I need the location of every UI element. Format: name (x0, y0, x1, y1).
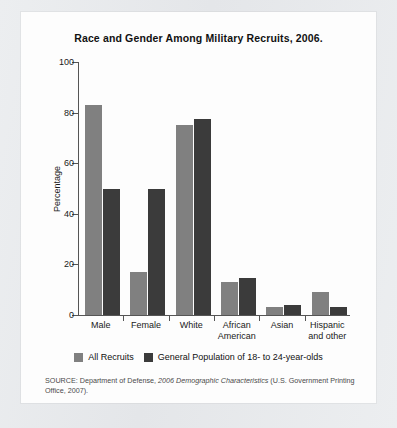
bar (194, 119, 211, 315)
y-tick-label: 60 (64, 158, 74, 168)
bar (330, 307, 347, 315)
bar-group (309, 62, 346, 315)
bar (284, 305, 301, 315)
x-axis-label-line: American (202, 331, 272, 342)
chart-title: Race and Gender Among Military Recruits,… (21, 32, 376, 44)
legend-label: All Recruits (88, 352, 134, 362)
bar-group (263, 62, 300, 315)
x-axis-label: Hispanicand other (292, 320, 362, 342)
bar (221, 282, 238, 315)
bar (85, 105, 102, 315)
chart-legend: All Recruits General Population of 18- t… (21, 352, 376, 362)
figure-card: Race and Gender Among Military Recruits,… (21, 12, 376, 403)
legend-label: General Population of 18- to 24-year-old… (158, 352, 323, 362)
source-title: 2006 Demographic Characteristics (158, 376, 268, 385)
bar (176, 125, 193, 315)
legend-swatch-icon (144, 353, 153, 362)
legend-item-general-population: General Population of 18- to 24-year-old… (144, 352, 323, 362)
bar-group (173, 62, 210, 315)
bar (103, 189, 120, 316)
bar (239, 278, 256, 315)
legend-item-all-recruits: All Recruits (74, 352, 134, 362)
bar (148, 189, 165, 316)
bar (266, 307, 283, 315)
y-tick-label: 80 (64, 108, 74, 118)
bar-group (218, 62, 255, 315)
bar-group (127, 62, 164, 315)
bar (130, 272, 147, 315)
y-tick-label: 40 (64, 209, 74, 219)
plot-area: Percentage 020406080100 MaleFemaleWhiteA… (78, 62, 350, 316)
x-axis-label-line: and other (292, 331, 362, 342)
legend-swatch-icon (74, 353, 83, 362)
y-tick-label: 100 (59, 57, 74, 67)
y-tick-label: 20 (64, 259, 74, 269)
source-note: SOURCE: Department of Defense, 2006 Demo… (45, 376, 355, 395)
source-prefix: SOURCE: Department of Defense, (45, 376, 158, 385)
bar (312, 292, 329, 315)
y-tick-label: 0 (69, 310, 74, 320)
y-axis-line (78, 62, 79, 316)
bar-group (82, 62, 119, 315)
y-axis-title: Percentage (52, 166, 62, 212)
x-axis-label-line: Hispanic (292, 320, 362, 331)
